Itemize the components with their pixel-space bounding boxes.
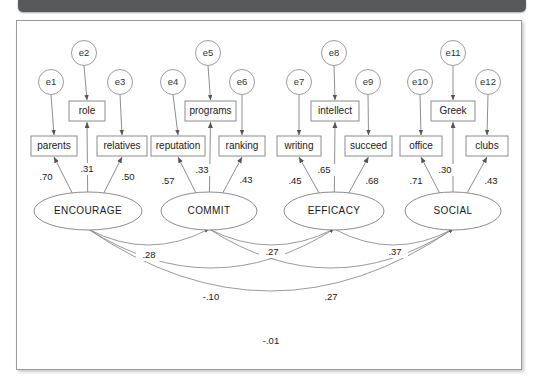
covariance-COMMIT-SOCIAL bbox=[209, 229, 453, 268]
loading-value-COMMIT-reputation: .57 bbox=[161, 175, 174, 186]
loading-value-COMMIT-programs: .33 bbox=[195, 164, 208, 175]
loading-value-SOCIAL-Greek: .30 bbox=[438, 164, 451, 175]
loading-value-EFFICACY-intellect: .65 bbox=[317, 164, 330, 175]
error-label-e6: e6 bbox=[237, 76, 248, 87]
observed-label-ranking: ranking bbox=[226, 140, 259, 151]
page-root: e1e2e3e4e5e6e7e8e9e10e11e12parentsrolere… bbox=[0, 0, 540, 383]
error-label-e3: e3 bbox=[115, 76, 126, 87]
loading-value-EFFICACY-writing: .45 bbox=[288, 175, 301, 186]
covariance-ENCOURAGE-COMMIT bbox=[88, 229, 209, 245]
observed-label-succeed: succeed bbox=[350, 140, 387, 151]
observed-label-reputation: reputation bbox=[156, 140, 200, 151]
error-path-e1 bbox=[51, 95, 54, 136]
loading-COMMIT-programs bbox=[209, 122, 210, 193]
latent-label-COMMIT: COMMIT bbox=[188, 205, 231, 216]
latent-label-ENCOURAGE: ENCOURAGE bbox=[54, 205, 122, 216]
error-label-e4: e4 bbox=[168, 76, 179, 87]
loading-value-ENCOURAGE-role: .31 bbox=[80, 163, 93, 174]
sem-path-diagram: e1e2e3e4e5e6e7e8e9e10e11e12parentsrolere… bbox=[17, 21, 521, 369]
covariance-value-ENCOURAGE-EFFICACY: -.10 bbox=[203, 291, 219, 302]
error-path-e8 bbox=[334, 66, 335, 101]
error-label-e10: e10 bbox=[412, 76, 428, 87]
observed-label-parents: parents bbox=[37, 140, 70, 151]
loading-value-EFFICACY-succeed: .68 bbox=[365, 175, 378, 186]
error-path-e3 bbox=[120, 95, 122, 136]
error-path-e4 bbox=[173, 95, 178, 136]
error-label-e8: e8 bbox=[329, 47, 340, 58]
observed-label-intellect: intellect bbox=[318, 105, 352, 116]
header-bar bbox=[18, 0, 526, 12]
loading-value-ENCOURAGE-relatives: .50 bbox=[121, 171, 134, 182]
observed-label-role: role bbox=[79, 105, 96, 116]
loading-value-SOCIAL-office: .71 bbox=[409, 175, 422, 186]
loading-value-COMMIT-ranking: .43 bbox=[239, 174, 252, 185]
error-label-e7: e7 bbox=[294, 76, 305, 87]
latent-label-SOCIAL: SOCIAL bbox=[433, 205, 472, 216]
error-path-e9 bbox=[368, 95, 369, 136]
observed-label-Greek: Greek bbox=[439, 105, 467, 116]
covariance-value-EFFICACY-SOCIAL: .37 bbox=[388, 246, 401, 257]
observed-label-relatives: relatives bbox=[103, 140, 140, 151]
covariance-EFFICACY-SOCIAL bbox=[334, 229, 453, 245]
error-label-e1: e1 bbox=[46, 76, 57, 87]
covariance-value-COMMIT-EFFICACY: .27 bbox=[265, 246, 278, 257]
covariance-value-COMMIT-SOCIAL: .27 bbox=[324, 291, 337, 302]
error-path-e5 bbox=[208, 66, 211, 101]
covariance-ENCOURAGE-EFFICACY bbox=[88, 229, 334, 268]
covariance-value-ENCOURAGE-SOCIAL: -.01 bbox=[263, 335, 279, 346]
loading-value-ENCOURAGE-parents: .70 bbox=[39, 171, 52, 182]
observed-label-clubs: clubs bbox=[475, 140, 498, 151]
observed-label-writing: writing bbox=[284, 140, 314, 151]
loading-value-SOCIAL-clubs: .43 bbox=[484, 175, 497, 186]
loading-ENCOURAGE-role bbox=[87, 122, 88, 193]
error-label-e11: e11 bbox=[445, 47, 460, 58]
figure-frame: e1e2e3e4e5e6e7e8e9e10e11e12parentsrolere… bbox=[16, 20, 522, 370]
error-label-e2: e2 bbox=[79, 47, 90, 58]
error-path-e10 bbox=[420, 95, 421, 136]
nodes-layer bbox=[31, 41, 508, 231]
covariance-COMMIT-EFFICACY bbox=[209, 229, 334, 245]
observed-label-office: office bbox=[409, 140, 433, 151]
error-path-e12 bbox=[487, 95, 488, 136]
covariance-value-ENCOURAGE-COMMIT: .28 bbox=[142, 249, 155, 260]
observed-label-programs: programs bbox=[189, 105, 231, 116]
error-path-e2 bbox=[84, 66, 87, 101]
error-label-e5: e5 bbox=[203, 47, 214, 58]
latent-label-EFFICACY: EFFICACY bbox=[308, 205, 361, 216]
error-label-e9: e9 bbox=[363, 76, 374, 87]
error-label-e12: e12 bbox=[480, 76, 496, 87]
loading-EFFICACY-intellect bbox=[334, 122, 335, 193]
